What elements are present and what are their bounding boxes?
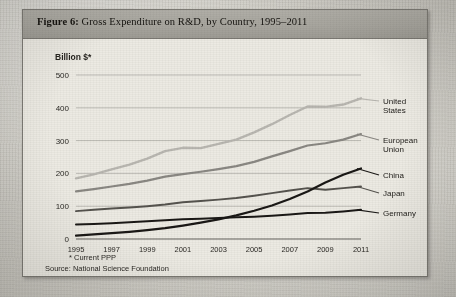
series-label-united-states: States	[383, 106, 406, 115]
leader-line-european-union	[357, 134, 379, 140]
x-tick-label: 2009	[317, 245, 334, 254]
series-line-germany	[76, 210, 361, 225]
series-label-european-union: European	[383, 136, 418, 145]
y-tick-label: 500	[56, 71, 70, 80]
y-tick-label: 200	[56, 169, 70, 178]
leader-line-japan	[357, 187, 379, 193]
series-label-germany: Germany	[383, 209, 416, 218]
series-label-european-union: Union	[383, 145, 404, 154]
leader-line-germany	[357, 210, 379, 213]
footnote-ppp: * Current PPP	[69, 253, 116, 262]
series-line-china	[76, 168, 361, 235]
series-line-japan	[76, 187, 361, 212]
chart-series-labels: UnitedStatesEuropeanUnionChinaJapanGerma…	[383, 97, 418, 218]
x-tick-label: 2001	[175, 245, 192, 254]
series-line-united-states	[76, 98, 361, 178]
x-tick-label: 2007	[281, 245, 298, 254]
leader-line-china	[357, 168, 379, 175]
chart-y-axis-ticks: 0100200300400500	[56, 71, 70, 244]
series-label-japan: Japan	[383, 189, 405, 198]
chart-series-leader-lines	[357, 98, 379, 213]
series-label-china: China	[383, 171, 404, 180]
footnote-source: Source: National Science Foundation	[45, 264, 169, 273]
y-tick-label: 400	[56, 104, 70, 113]
series-label-united-states: United	[383, 97, 406, 106]
x-tick-label: 2005	[246, 245, 263, 254]
chart-gridlines	[76, 75, 361, 239]
y-tick-label: 100	[56, 202, 70, 211]
chart-series-lines	[76, 98, 361, 235]
figure-box: Figure 6: Gross Expenditure on R&D, by C…	[22, 9, 428, 277]
x-tick-label: 1999	[139, 245, 156, 254]
chart-plot-area: 0100200300400500 19951997199920012003200…	[23, 10, 429, 278]
y-tick-label: 0	[65, 235, 70, 244]
x-tick-label: 2011	[353, 245, 369, 254]
y-tick-label: 300	[56, 137, 70, 146]
x-tick-label: 2003	[210, 245, 227, 254]
